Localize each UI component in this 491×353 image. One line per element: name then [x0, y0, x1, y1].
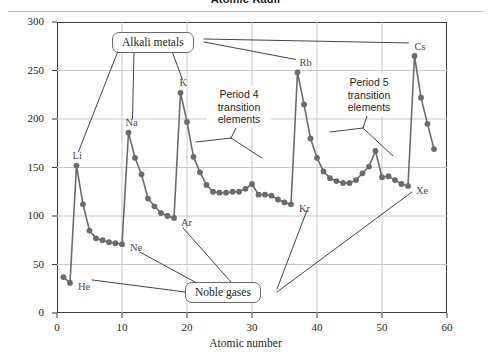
annotation-period-4-line3: elements — [211, 113, 267, 126]
point-label-kr: Kr — [299, 203, 310, 214]
annotation-period-4-line1: Period 4 — [211, 88, 267, 101]
annotation-period-4: Period 4 transition elements — [207, 86, 271, 128]
gridlines — [57, 22, 447, 313]
point-label-he: He — [78, 281, 90, 292]
y-tick-label: 0 — [14, 307, 44, 318]
callout-alkali-metals: Alkali metals — [112, 32, 194, 53]
annotation-period-5: Period 5 transition elements — [337, 74, 401, 116]
callout-noble-gases: Noble gases — [185, 282, 261, 303]
y-tick-label: 200 — [14, 113, 44, 124]
point-label-cs: Cs — [415, 41, 426, 52]
annotation-period-5-line3: elements — [341, 101, 397, 114]
point-label-ar: Ar — [181, 217, 192, 228]
x-axis-title: Atomic number — [0, 337, 491, 349]
x-tick-label: 10 — [102, 321, 142, 333]
axis-ticks — [52, 22, 447, 318]
chart-root: Atomic Radii 050100150200250300 Radius (… — [0, 0, 491, 353]
y-tick-label: 150 — [14, 162, 44, 173]
point-label-ne: Ne — [130, 242, 142, 253]
annotation-period-5-line2: transition — [341, 89, 397, 102]
x-tick-label: 60 — [427, 321, 467, 333]
x-tick-label: 40 — [297, 321, 337, 333]
y-tick-label: 300 — [14, 16, 44, 27]
annotation-period-4-line2: transition — [211, 101, 267, 114]
y-tick-label: 50 — [14, 259, 44, 270]
point-label-k: K — [180, 77, 188, 88]
x-tick-label: 20 — [167, 321, 207, 333]
x-tick-label: 0 — [37, 321, 77, 333]
point-label-rb: Rb — [300, 57, 312, 68]
y-tick-label: 250 — [14, 65, 44, 76]
y-tick-label: 100 — [14, 210, 44, 221]
x-tick-label: 50 — [362, 321, 402, 333]
point-label-na: Na — [126, 117, 138, 128]
x-tick-label: 30 — [232, 321, 272, 333]
annotation-period-5-line1: Period 5 — [341, 76, 397, 89]
point-label-xe: Xe — [416, 185, 428, 196]
point-label-li: Li — [73, 150, 82, 161]
